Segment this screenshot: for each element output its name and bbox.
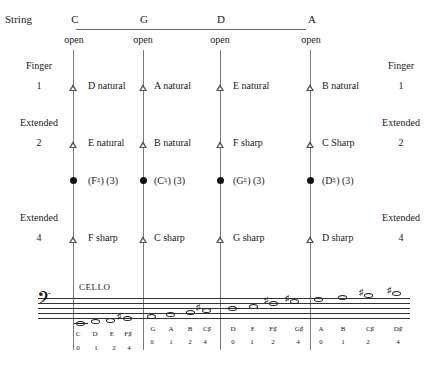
fingering: 4 bbox=[203, 338, 207, 346]
note-ext2-a: C Sharp bbox=[322, 137, 355, 148]
note-name: G♯ bbox=[295, 325, 304, 333]
left-finger-num: 1 bbox=[37, 80, 42, 91]
staff-line bbox=[38, 313, 410, 314]
note-name: F♯ bbox=[269, 325, 276, 333]
staff-line bbox=[38, 308, 410, 309]
left-extended-num-2: 2 bbox=[37, 137, 42, 148]
whole-note-icon bbox=[202, 308, 211, 313]
note-ext2-d: F sharp bbox=[233, 137, 263, 148]
whole-note-icon bbox=[249, 304, 258, 309]
fingering: 4 bbox=[396, 338, 400, 346]
fingering: 0 bbox=[150, 338, 154, 346]
note-name: D bbox=[92, 330, 97, 338]
sharp-icon: ♯ bbox=[264, 296, 269, 305]
note-name: D♯ bbox=[394, 325, 403, 333]
triangle-marker-icon bbox=[306, 141, 314, 148]
sharp-icon: ♯ bbox=[196, 303, 201, 312]
note-name: C bbox=[76, 330, 81, 338]
note-third-g: (C♮) (3) bbox=[154, 175, 185, 186]
note-ext4-a: D sharp bbox=[322, 232, 353, 243]
sharp-icon: ♯ bbox=[387, 286, 392, 295]
string-label-d: D bbox=[217, 13, 225, 25]
dot-marker-icon bbox=[70, 177, 77, 184]
string-line-d bbox=[220, 50, 221, 350]
header-divider bbox=[76, 29, 306, 30]
whole-note-icon bbox=[392, 291, 401, 296]
note-name: C♯ bbox=[203, 325, 211, 333]
note-ext4-g: C sharp bbox=[154, 232, 185, 243]
whole-note-icon bbox=[290, 299, 299, 304]
string-label-g: G bbox=[140, 13, 148, 25]
note-ext4-d: G sharp bbox=[233, 232, 264, 243]
right-finger-num: 1 bbox=[399, 80, 404, 91]
note-third-d: (G♮) (3) bbox=[233, 175, 265, 186]
sharp-icon: ♯ bbox=[117, 312, 122, 321]
triangle-marker-icon bbox=[69, 236, 77, 243]
right-extended-num-4: 4 bbox=[399, 232, 404, 243]
triangle-marker-icon bbox=[69, 84, 77, 91]
fingering: 1 bbox=[94, 344, 98, 352]
whole-note-icon bbox=[228, 306, 237, 311]
right-finger-label: Finger bbox=[388, 60, 414, 71]
note-name: F♯ bbox=[124, 330, 131, 338]
triangle-marker-icon bbox=[139, 84, 147, 91]
fingering: 2 bbox=[271, 338, 275, 346]
dot-marker-icon bbox=[217, 177, 224, 184]
triangle-marker-icon bbox=[139, 236, 147, 243]
dot-marker-icon bbox=[307, 177, 314, 184]
note-finger1-a: B natural bbox=[322, 80, 359, 91]
left-extended-label-4: Extended bbox=[20, 212, 58, 223]
triangle-marker-icon bbox=[69, 141, 77, 148]
note-finger1-g: A natural bbox=[154, 80, 191, 91]
whole-note-icon bbox=[186, 310, 195, 315]
whole-note-icon bbox=[269, 301, 278, 306]
left-extended-label-2: Extended bbox=[20, 117, 58, 128]
string-label-c: C bbox=[71, 13, 78, 25]
sharp-icon: ♯ bbox=[285, 294, 290, 303]
string-line-g bbox=[143, 50, 144, 350]
note-name: G bbox=[150, 325, 155, 333]
open-label-d: open bbox=[210, 34, 229, 45]
staff-line bbox=[38, 303, 410, 304]
whole-note-icon bbox=[147, 314, 156, 319]
triangle-marker-icon bbox=[216, 84, 224, 91]
instrument-label: CELLO bbox=[79, 282, 111, 292]
note-name: B bbox=[188, 325, 193, 333]
note-ext4-c: F sharp bbox=[88, 232, 118, 243]
note-name: B bbox=[341, 325, 346, 333]
string-row-label: String bbox=[5, 13, 32, 25]
bass-clef-icon: 𝄢 bbox=[37, 290, 51, 312]
note-third-a: (D♮) (3) bbox=[322, 175, 354, 186]
whole-note-icon bbox=[314, 297, 323, 302]
note-name: E bbox=[251, 325, 255, 333]
open-label-a: open bbox=[301, 34, 320, 45]
fingering: 2 bbox=[366, 338, 370, 346]
whole-note-icon bbox=[123, 316, 132, 321]
right-extended-label-4: Extended bbox=[382, 212, 420, 223]
fingering: 4 bbox=[127, 344, 131, 352]
fingering: 0 bbox=[76, 344, 80, 352]
fingering: 1 bbox=[169, 338, 173, 346]
open-label-c: open bbox=[64, 34, 83, 45]
left-extended-num-4: 4 bbox=[37, 232, 42, 243]
note-third-c: (F♮) (3) bbox=[88, 175, 118, 186]
triangle-marker-icon bbox=[216, 141, 224, 148]
note-ext2-g: B natural bbox=[154, 137, 191, 148]
string-line-c bbox=[73, 50, 74, 350]
triangle-marker-icon bbox=[306, 84, 314, 91]
note-finger1-c: D natural bbox=[88, 80, 126, 91]
whole-note-icon bbox=[76, 321, 85, 326]
staff-line bbox=[38, 298, 410, 299]
note-name: A bbox=[168, 325, 173, 333]
sharp-icon: ♯ bbox=[359, 288, 364, 297]
left-finger-label: Finger bbox=[26, 60, 52, 71]
whole-note-icon bbox=[338, 295, 347, 300]
fingering: 0 bbox=[231, 338, 235, 346]
string-line-a bbox=[310, 50, 311, 350]
note-name: A bbox=[318, 325, 323, 333]
open-label-g: open bbox=[133, 34, 152, 45]
fingering: 1 bbox=[250, 338, 254, 346]
right-extended-num-2: 2 bbox=[399, 137, 404, 148]
string-label-a: A bbox=[308, 13, 316, 25]
right-extended-label-2: Extended bbox=[382, 117, 420, 128]
